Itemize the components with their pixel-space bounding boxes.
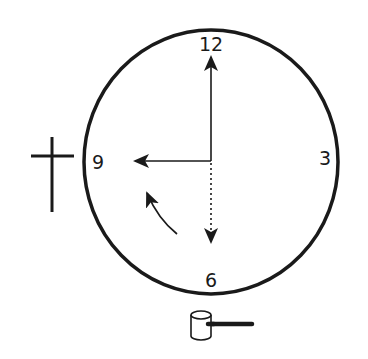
rotation-arrow-icon — [147, 193, 177, 234]
cross-icon — [31, 137, 74, 212]
hammer-icon — [191, 311, 252, 340]
numeral-9: 9 — [92, 151, 104, 173]
clock-diagram: 12 3 6 9 — [0, 0, 368, 359]
numeral-12: 12 — [199, 33, 223, 55]
numeral-3: 3 — [319, 147, 331, 169]
numeral-6: 6 — [205, 269, 217, 291]
